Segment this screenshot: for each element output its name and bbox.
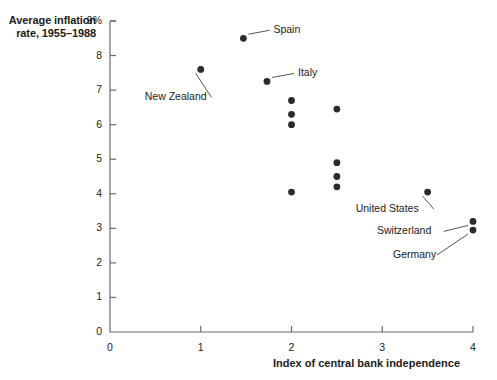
x-tick-label-1: 1 [181,341,221,353]
x-tick-label-3: 3 [362,341,402,353]
y-tick-label-9: 9% [64,14,102,26]
data-point-germany [470,227,477,234]
y-tick-label-5: 5 [64,152,102,164]
x-tick-label-2: 2 [272,341,312,353]
data-point-spain [240,35,247,42]
data-point [288,97,295,104]
y-tick-label-1: 1 [64,290,102,302]
data-point [333,173,340,180]
data-point [288,121,295,128]
y-tick-label-0: 0 [64,325,102,337]
y-tick-label-4: 4 [64,187,102,199]
data-point [333,106,340,113]
data-point-new-zealand [197,66,204,73]
y-tick-label-7: 7 [64,83,102,95]
data-points [197,35,476,234]
point-label-italy: Italy [298,66,317,78]
y-tick-label-2: 2 [64,256,102,268]
y-tick-label-3: 3 [64,221,102,233]
data-point [333,183,340,190]
y-tick-label-6: 6 [64,118,102,130]
data-point-united-states [424,189,431,196]
x-tick-label-0: 0 [90,341,130,353]
data-point [288,189,295,196]
point-label-spain: Spain [273,23,300,35]
leader-lines [196,30,468,255]
data-point [288,111,295,118]
point-label-united-states: United States [356,202,419,214]
point-label-germany: Germany [393,248,436,260]
data-point-italy [264,78,271,85]
data-point-switzerland [470,218,477,225]
chart-canvas: Average inflation rate, 1955–1988 Index … [0,0,497,380]
point-label-switzerland: Switzerland [377,224,431,236]
axes [110,21,473,332]
point-label-new-zealand: New Zealand [145,90,207,102]
x-tick-label-4: 4 [453,341,493,353]
y-tick-label-8: 8 [64,49,102,61]
data-point [333,159,340,166]
